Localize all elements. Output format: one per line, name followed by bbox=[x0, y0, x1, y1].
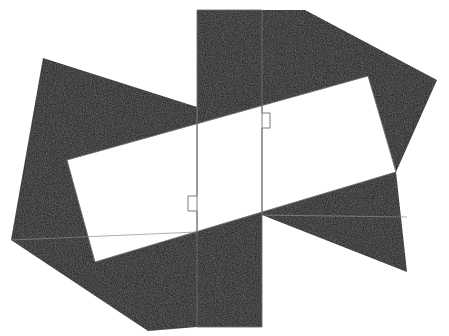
figure-canvas: Abstract geometric composition Black ang… bbox=[0, 0, 449, 336]
geometric-composition-svg: Abstract geometric composition Black ang… bbox=[0, 0, 449, 336]
